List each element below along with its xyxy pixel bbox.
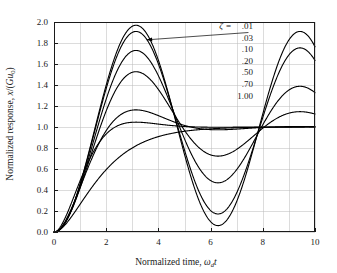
legend-entry-_01: .01 [242, 21, 253, 31]
y-tick-label: 0.8 [37, 143, 49, 153]
x-axis-title-text: Normalized time, [135, 257, 204, 267]
y-axis-title: Normalized response, x/(Gu0) [5, 67, 16, 180]
chart-figure: 0.00.20.40.60.81.01.21.41.61.82.0 024681… [0, 0, 337, 273]
y-tick-label: 1.0 [37, 122, 49, 132]
y-tick-label: 1.4 [37, 80, 49, 90]
legend-title: ζ= [219, 21, 231, 31]
x-tick-label: 8 [261, 237, 266, 247]
y-axis-title-text: Normalized response, [5, 95, 15, 180]
x-axis-title: Normalized time, ωdt [135, 257, 217, 268]
time-variable: t [214, 257, 217, 267]
legend-entry-_20: .20 [242, 56, 254, 66]
x-tick-label: 2 [104, 237, 109, 247]
x-tick-label: 0 [52, 237, 57, 247]
legend-entry-1_00: 1.00 [237, 91, 253, 101]
figure-background [0, 0, 337, 273]
y-tick-label: 1.2 [37, 101, 48, 111]
x-tick-label: 6 [208, 237, 213, 247]
y-tick-label: 0.0 [37, 227, 49, 237]
step-response-plot: 0.00.20.40.60.81.01.21.41.61.82.0 024681… [0, 0, 337, 273]
y-tick-label: 1.6 [37, 59, 49, 69]
y-tick-label: 2.0 [37, 17, 49, 27]
legend-entry-_03: .03 [242, 33, 254, 43]
x-tick-label: 4 [156, 237, 161, 247]
legend-equals-sign: = [226, 21, 231, 31]
y-axis-paren: ) [5, 67, 16, 70]
y-tick-label: 0.6 [37, 164, 49, 174]
x-tick-label: 10 [311, 237, 321, 247]
y-tick-label: 0.4 [37, 185, 49, 195]
legend-entry-_70: .70 [242, 79, 254, 89]
legend-entry-_10: .10 [242, 44, 254, 54]
y-tick-label: 1.8 [37, 38, 49, 48]
y-tick-label: 0.2 [37, 206, 48, 216]
legend-entry-_50: .50 [242, 67, 254, 77]
